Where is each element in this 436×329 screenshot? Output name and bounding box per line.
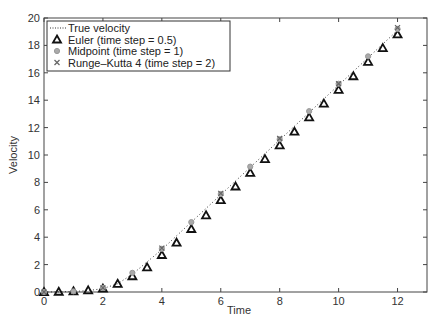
y-tick-label: 6 — [34, 204, 40, 216]
data-point — [189, 220, 194, 225]
x-axis-label: Time — [227, 304, 251, 316]
x-tick-label: 10 — [332, 295, 344, 307]
x-tick-label: 2 — [100, 295, 106, 307]
data-point — [379, 44, 387, 51]
y-tick-label: 0 — [34, 286, 40, 298]
legend-swatch — [54, 48, 59, 53]
data-point — [305, 113, 313, 120]
y-tick-label: 14 — [28, 94, 40, 106]
data-point — [71, 289, 76, 294]
velocity-chart: 02468101202468101214161820 Time Velocity… — [0, 0, 436, 329]
data-point — [290, 128, 298, 135]
data-point — [187, 225, 195, 232]
legend: True velocityEuler (time step = 0.5)Midp… — [47, 21, 230, 71]
legend-label: True velocity — [68, 22, 130, 34]
data-point — [246, 169, 254, 176]
y-tick-label: 4 — [34, 231, 40, 243]
y-axis-label: Velocity — [7, 136, 19, 174]
data-point — [143, 263, 151, 270]
legend-label: Euler (time step = 0.5) — [68, 34, 177, 46]
data-point — [232, 183, 240, 190]
y-tick-label: 8 — [34, 176, 40, 188]
y-tick-label: 20 — [28, 12, 40, 24]
y-tick-label: 2 — [34, 259, 40, 271]
y-tick-label: 16 — [28, 67, 40, 79]
data-point — [114, 280, 122, 287]
data-point — [349, 72, 357, 79]
data-point — [261, 155, 269, 162]
data-point — [248, 164, 253, 169]
x-tick-label: 0 — [41, 295, 47, 307]
x-tick-label: 8 — [277, 295, 283, 307]
data-point — [173, 239, 181, 246]
x-tick-label: 12 — [391, 295, 403, 307]
data-point — [307, 109, 312, 114]
x-tick-label: 6 — [218, 295, 224, 307]
data-point — [320, 100, 328, 107]
data-point — [335, 86, 343, 93]
y-tick-label: 12 — [28, 122, 40, 134]
legend-label: Midpoint (time step = 1) — [68, 45, 183, 57]
data-point — [130, 270, 135, 275]
data-point — [202, 211, 210, 218]
data-point — [55, 288, 63, 295]
data-point — [365, 54, 370, 59]
legend-label: Runge–Kutta 4 (time step = 2) — [68, 57, 215, 69]
x-tick-label: 4 — [159, 295, 165, 307]
y-tick-label: 10 — [28, 149, 40, 161]
y-tick-label: 18 — [28, 39, 40, 51]
